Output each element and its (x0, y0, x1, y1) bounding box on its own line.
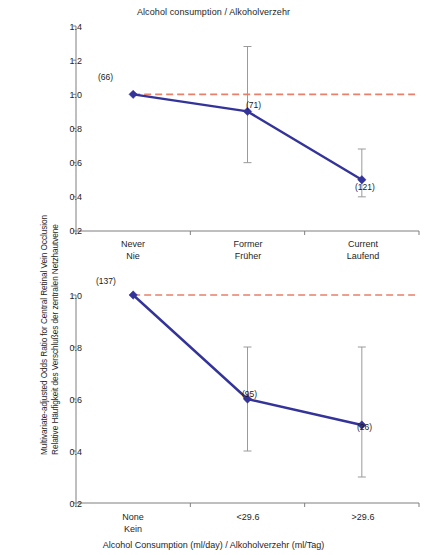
bottom-ytick-0.2: 0.2 (52, 499, 82, 509)
figure-container: Alcohol consumption / Alkoholverzehr Mul… (0, 0, 427, 555)
bottom-point-label-1: (95) (242, 389, 257, 399)
bottom-xtick-none-de: Kein (124, 524, 142, 534)
top-point-label-1: (71) (246, 100, 261, 110)
bottom-ytick-1.0: 1.0 (52, 291, 82, 301)
top-xtick-never-en: Never (121, 239, 145, 249)
bottom-xtick-none-en: None (122, 512, 144, 522)
top-ytick-0.2: 0.2 (52, 226, 82, 236)
bottom-panel-plot: 1.0 0.8 0.6 0.4 0.2 None Kein <29.6 >29.… (0, 270, 427, 535)
bottom-ytick-0.6: 0.6 (52, 395, 82, 405)
data-point-marker-0 (129, 90, 137, 98)
bottom-xtick-low-en: <29.6 (237, 512, 260, 522)
top-ytick-1.2: 1.2 (52, 56, 82, 66)
bottom-point-label-2: (26) (357, 422, 372, 432)
top-xtick-former: Former Früher (203, 238, 293, 262)
bottom-ytick-0.4: 0.4 (52, 447, 82, 457)
top-panel-plot: 1.4 1.2 1.0 0.8 0.6 0.4 0.2 Never Nie Fo… (0, 0, 427, 270)
top-point-label-0: (66) (98, 72, 113, 82)
top-xtick-former-de: Früher (235, 251, 262, 261)
top-ytick-0.4: 0.4 (52, 192, 82, 202)
top-ytick-0.8: 0.8 (52, 124, 82, 134)
bottom-xtick-high-en: >29.6 (352, 512, 375, 522)
top-ytick-1.0: 1.0 (52, 90, 82, 100)
top-xtick-current: Current Laufend (318, 238, 408, 262)
x-axis-title: Alcohol Consumption (ml/day) / Alkoholve… (0, 540, 427, 550)
top-xtick-current-de: Laufend (347, 251, 380, 261)
top-xtick-never-de: Nie (126, 251, 140, 261)
top-xtick-former-en: Former (234, 239, 263, 249)
bottom-xtick-low: <29.6 (203, 511, 293, 523)
bottom-xtick-none: None Kein (88, 511, 178, 535)
top-xtick-never: Never Nie (88, 238, 178, 262)
bottom-point-label-0: (137) (96, 276, 116, 286)
top-ytick-1.4: 1.4 (52, 22, 82, 32)
top-ytick-0.6: 0.6 (52, 158, 82, 168)
top-point-label-2: (121) (355, 182, 375, 192)
top-xtick-current-en: Current (348, 239, 378, 249)
bottom-xtick-high: >29.6 (318, 511, 408, 523)
bottom-ytick-0.8: 0.8 (52, 343, 82, 353)
